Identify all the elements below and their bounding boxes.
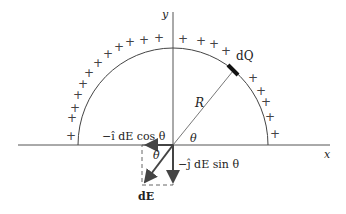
semicircle-field-diagram: + + + + + + + + + + + + + + + + + + + + … — [0, 0, 346, 214]
svg-text:+: + — [196, 34, 206, 48]
angle-label-lower: θ — [153, 149, 160, 162]
svg-text:+: + — [265, 110, 275, 124]
svg-text:+: + — [221, 44, 231, 58]
field-label: dE — [138, 190, 154, 203]
svg-text:+: + — [103, 47, 113, 61]
dq-label: dQ — [236, 49, 254, 63]
svg-text:+: + — [139, 33, 149, 47]
svg-text:+: + — [70, 101, 80, 115]
svg-text:+: + — [248, 71, 258, 85]
svg-text:+: + — [261, 95, 271, 109]
radius-label: R — [194, 96, 204, 110]
svg-text:+: + — [154, 31, 164, 45]
svg-text:+: + — [209, 37, 219, 51]
y-axis-label: y — [161, 8, 169, 21]
svg-text:+: + — [66, 129, 76, 143]
x-component-label: −î dE cos θ — [102, 130, 166, 143]
y-component-label: −ĵ dE sin θ — [178, 158, 239, 171]
svg-text:+: + — [178, 32, 188, 46]
svg-text:+: + — [270, 127, 280, 141]
charge-element-dq — [228, 65, 238, 75]
x-axis-label: x — [324, 148, 331, 161]
angle-label-upper: θ — [190, 132, 197, 145]
svg-text:+: + — [114, 40, 124, 54]
svg-text:+: + — [125, 35, 135, 49]
svg-text:+: + — [93, 56, 103, 70]
